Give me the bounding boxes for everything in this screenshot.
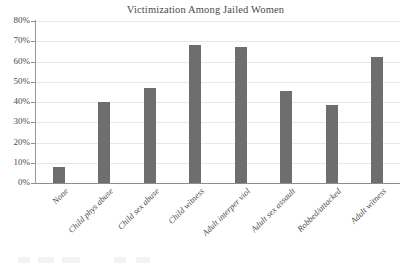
x-axis-tick-label: Robbed/attacked: [295, 186, 343, 234]
x-axis-tick-label-wrap: Adult interper viol: [200, 186, 252, 238]
x-axis-tick-label: Adult sex assault: [249, 186, 297, 234]
x-axis-tick-label: None: [50, 186, 70, 206]
x-axis-tick-label-wrap: None: [50, 186, 70, 206]
x-axis-tick-label-wrap: Robbed/attacked: [295, 186, 343, 234]
x-axis-tick-label-wrap: Child witness: [166, 186, 206, 226]
x-axis-tick-label: Child phys abuse: [66, 186, 115, 235]
x-axis-tick-label-wrap: Adult witness: [349, 186, 389, 226]
x-axis-labels: NoneChild phys abuseChild sex abuseChild…: [0, 0, 411, 264]
x-axis-tick-label-wrap: Child sex abuse: [115, 186, 161, 232]
x-axis-tick-label: Child witness: [166, 186, 206, 226]
page-scan-artifact: [18, 257, 228, 263]
x-axis-tick-label-wrap: Child phys abuse: [66, 186, 115, 235]
x-axis-tick-label-wrap: Adult sex assault: [249, 186, 297, 234]
x-axis-tick-label: Child sex abuse: [115, 186, 161, 232]
x-axis-tick-label: Adult interper viol: [200, 186, 252, 238]
x-axis-tick-label: Adult witness: [349, 186, 389, 226]
